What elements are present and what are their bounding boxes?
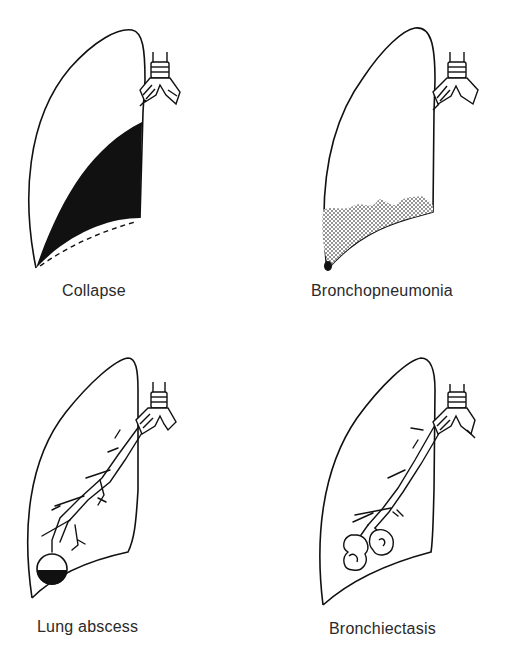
label-collapse: Collapse	[62, 282, 126, 300]
label-bronchiectasis: Bronchiectasis	[329, 620, 436, 638]
lung-abscess-illustration	[0, 330, 253, 663]
bronchial-tree	[353, 425, 441, 535]
consolidation-stipple	[322, 196, 433, 268]
label-lung-abscess: Lung abscess	[37, 618, 138, 636]
panel-bronchopneumonia: Bronchopneumonia	[253, 0, 507, 330]
panel-collapse: Collapse	[0, 0, 253, 330]
label-bronchopneumonia: Bronchopneumonia	[311, 282, 453, 300]
trachea-icon	[433, 384, 475, 438]
lung-outline	[320, 358, 435, 605]
trachea-icon	[433, 52, 478, 110]
panel-bronchiectasis: Bronchiectasis	[253, 330, 507, 663]
lung-bronchopneumonia-illustration	[253, 0, 507, 330]
lung-collapse-illustration	[0, 0, 253, 330]
abscess-fluid-level	[37, 570, 67, 585]
lung-bronchiectasis-illustration	[253, 330, 507, 663]
panel-lung-abscess: Lung abscess	[0, 330, 253, 663]
dilated-bronchi	[344, 530, 394, 571]
trachea-icon	[136, 382, 176, 434]
trachea-icon	[140, 52, 180, 106]
bronchial-tree	[42, 425, 145, 552]
lung-outline	[28, 358, 138, 598]
collapsed-lobe	[36, 122, 142, 268]
